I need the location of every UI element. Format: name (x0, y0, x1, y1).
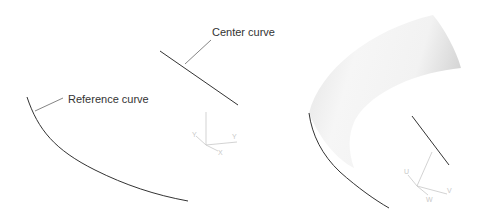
triad-label: W (426, 196, 433, 203)
swept-surface (309, 15, 461, 168)
reference-curve-label: Reference curve (68, 93, 149, 105)
center-curve-leader (185, 40, 211, 64)
triad-label: Y (192, 131, 197, 138)
triad-label: Y (232, 133, 237, 140)
center-curve (160, 51, 238, 105)
triad-label: V (447, 187, 452, 194)
reference-curve (27, 97, 188, 201)
right-panel: U V W (309, 15, 461, 208)
center-curve (412, 116, 449, 165)
coordinate-triad-icon (408, 152, 447, 195)
triad-label: U (404, 168, 409, 175)
coordinate-triad-icon (196, 112, 237, 151)
triad-label: X (218, 149, 223, 156)
left-panel: Center curve Reference curve Y Y X (27, 26, 275, 201)
reference-curve-leader (35, 98, 63, 111)
diagram-canvas: Center curve Reference curve Y Y X (0, 0, 486, 219)
center-curve-label: Center curve (212, 26, 275, 38)
